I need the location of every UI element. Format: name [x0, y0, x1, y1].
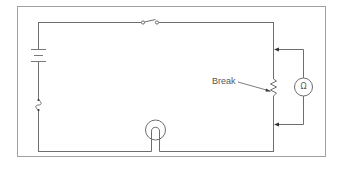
battery-icon [31, 50, 46, 62]
fuse-icon [36, 99, 41, 111]
lamp-icon [146, 120, 166, 152]
circuit-diagram: Ω Break [0, 0, 340, 176]
resistor-icon [271, 79, 277, 96]
ohm-symbol: Ω [295, 83, 313, 91]
circuit-svg [0, 0, 340, 176]
switch-icon [141, 20, 158, 25]
break-label: Break [212, 77, 236, 86]
break-leader [238, 82, 271, 92]
outer-frame [18, 7, 326, 157]
